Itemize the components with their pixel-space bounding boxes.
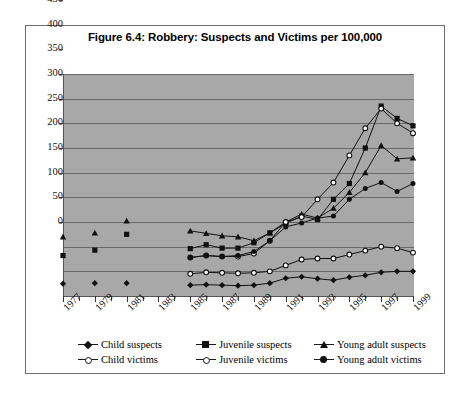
legend-item-child-suspects[interactable]: Child suspects (78, 338, 162, 350)
legend-label: Child suspects (101, 339, 162, 350)
circle-filled-icon (314, 355, 334, 365)
data-point (347, 197, 352, 202)
data-point (331, 214, 336, 219)
data-point (219, 246, 224, 251)
data-point (362, 169, 368, 175)
y-axis-tick (59, 49, 63, 50)
y-axis-tick (59, 0, 63, 1)
data-point (267, 280, 273, 286)
chart-title: Figure 6.4: Robbery: Suspects and Victim… (26, 31, 444, 43)
data-point (363, 248, 368, 253)
data-point (252, 270, 257, 275)
data-point (236, 271, 241, 276)
y-axis-tick-label: 200 (29, 117, 63, 127)
y-axis-tick-label: 100 (29, 167, 63, 177)
data-point (314, 276, 320, 282)
y-axis-tick (59, 25, 63, 26)
square-filled-icon (196, 340, 216, 350)
data-point (347, 181, 352, 186)
series-line (190, 106, 413, 249)
y-axis: 050100150200250300350400450 (22, 0, 63, 222)
data-point (188, 246, 193, 251)
data-point (123, 218, 129, 224)
legend-item-young-adult-suspects[interactable]: Young adult suspects (314, 338, 426, 350)
data-point (188, 255, 193, 260)
data-point (267, 238, 272, 243)
data-point (283, 263, 288, 268)
diamond-filled-icon (78, 340, 98, 350)
data-point (379, 244, 384, 249)
y-axis-tick-label: 50 (29, 191, 63, 201)
circle-open-icon (78, 355, 98, 365)
data-point (331, 197, 336, 202)
data-point (299, 257, 304, 262)
data-point (299, 220, 304, 225)
legend-item-juvenile-victims[interactable]: Juvenile victims (196, 353, 288, 365)
data-point (379, 180, 384, 185)
data-point (379, 106, 384, 111)
legend-item-juvenile-suspects[interactable]: Juvenile suspects (196, 338, 292, 350)
data-point (378, 142, 384, 148)
data-point (187, 228, 193, 234)
data-point (204, 253, 209, 258)
data-point (188, 271, 193, 276)
y-axis-tick-label: 400 (29, 19, 63, 29)
y-axis-tick-label: 150 (29, 142, 63, 152)
data-point (347, 252, 352, 257)
data-point (378, 269, 384, 275)
data-point (363, 145, 368, 150)
data-point (219, 282, 225, 288)
series-line (190, 146, 413, 241)
legend-label: Juvenile victims (219, 354, 288, 365)
data-point (204, 270, 209, 275)
data-point (331, 180, 336, 185)
data-point (411, 181, 416, 186)
data-point (124, 232, 129, 237)
chart-legend: Child suspectsJuvenile suspectsYoung adu… (78, 338, 428, 368)
y-axis-tick-label: 450 (29, 0, 63, 4)
y-axis-tick-label: 350 (29, 43, 63, 53)
data-point (203, 282, 209, 288)
data-point (395, 121, 400, 126)
data-point (346, 274, 352, 280)
legend-item-young-adult-victims[interactable]: Young adult victims (314, 353, 422, 365)
legend-label: Juvenile suspects (219, 339, 292, 350)
data-point (60, 253, 65, 258)
data-point (283, 275, 289, 281)
data-point (363, 126, 368, 131)
data-point (411, 131, 416, 136)
data-point (220, 254, 225, 259)
data-point (299, 274, 305, 280)
data-point (267, 269, 272, 274)
data-point (92, 230, 98, 236)
data-point (363, 186, 368, 191)
data-series-layer (63, 74, 414, 297)
data-point (347, 153, 352, 158)
data-point (330, 277, 336, 283)
data-point (395, 189, 400, 194)
data-point (395, 246, 400, 251)
data-point (411, 250, 416, 255)
data-point (315, 216, 320, 221)
data-point (251, 282, 257, 288)
data-point (283, 224, 288, 229)
data-point (204, 242, 209, 247)
data-point (187, 282, 193, 288)
legend-item-child-victims[interactable]: Child victims (78, 353, 158, 365)
data-point (410, 123, 415, 128)
figure-container: Figure 6.4: Robbery: Suspects and Victim… (0, 0, 471, 399)
data-point (394, 116, 399, 121)
data-point (331, 256, 336, 261)
data-point (283, 220, 288, 225)
data-point (220, 270, 225, 275)
data-point (92, 280, 98, 286)
y-axis-tick-label: 250 (29, 93, 63, 103)
y-axis-tick-label: 0 (29, 216, 63, 226)
triangle-filled-icon (314, 340, 334, 350)
data-point (315, 197, 320, 202)
data-point (92, 248, 97, 253)
circle-open-icon (196, 355, 216, 365)
data-point (235, 283, 241, 289)
data-point (124, 280, 130, 286)
legend-label: Young adult victims (337, 354, 422, 365)
